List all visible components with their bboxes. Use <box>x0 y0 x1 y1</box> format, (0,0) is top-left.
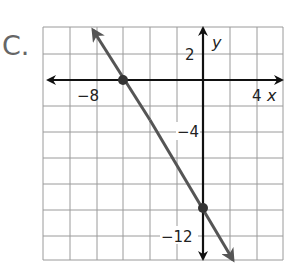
x-tick-4: 4 <box>252 87 262 105</box>
coordinate-plane: −8 4 x 2 y −4 −12 <box>0 0 293 263</box>
x-tick-neg8: −8 <box>77 87 99 105</box>
x-axis-label: x <box>266 86 277 105</box>
point-x-intercept <box>118 75 128 85</box>
y-tick-neg12: −12 <box>161 228 193 246</box>
y-tick-neg4: −4 <box>177 123 199 141</box>
point-y-intercept <box>198 203 208 213</box>
y-axis-label: y <box>211 33 222 52</box>
y-tick-2: 2 <box>185 46 195 64</box>
